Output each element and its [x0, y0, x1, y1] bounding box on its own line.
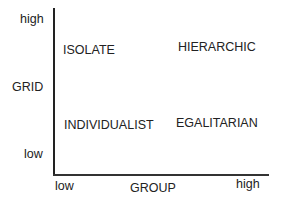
quadrant-individualist: INDIVIDUALIST	[64, 119, 154, 132]
quadrant-isolate: ISOLATE	[63, 44, 115, 57]
y-axis-title: GRID	[12, 81, 43, 94]
y-axis-high-label: high	[20, 13, 44, 26]
y-axis-line	[53, 8, 55, 176]
x-axis-high-label: high	[236, 178, 260, 191]
x-axis-title: GROUP	[130, 182, 176, 195]
quadrant-hierarchic: HIERARCHIC	[178, 41, 256, 54]
x-axis-low-label: low	[55, 180, 74, 193]
quadrant-egalitarian: EGALITARIAN	[176, 117, 258, 130]
y-axis-low-label: low	[24, 148, 43, 161]
x-axis-line	[53, 174, 269, 176]
